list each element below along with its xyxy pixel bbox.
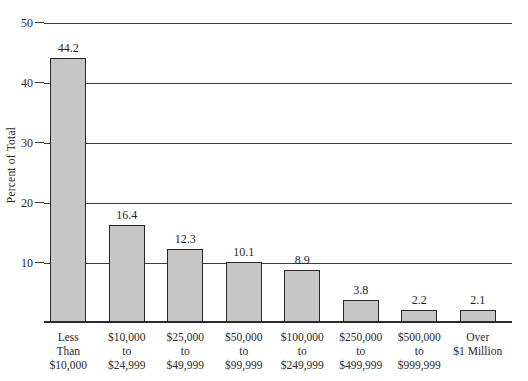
bar-value-label: 16.4: [116, 208, 137, 223]
x-axis-label: $25,000to$49,999: [167, 330, 204, 372]
x-axis-label: $50,000to$99,999: [225, 330, 262, 372]
y-tick-label-20: 20: [21, 196, 33, 211]
x-axis-label-line: $100,000: [281, 330, 324, 344]
bar-chart: Percent of Total 1020304050 44.216.412.3…: [0, 0, 528, 381]
y-tick-mark-40: [35, 82, 44, 83]
bar[interactable]: 3.8: [343, 300, 379, 323]
x-axis-label-line: Than: [50, 344, 87, 358]
bar-value-label: 3.8: [353, 283, 368, 298]
x-axis-category-labels: LessThan$10,000$10,000to$24,999$25,000to…: [44, 330, 512, 380]
x-axis-label-line: to: [339, 344, 382, 358]
y-tick-label-40: 40: [21, 76, 33, 91]
y-tick-mark-10: [35, 262, 44, 263]
bar-value-label: 8.9: [295, 253, 310, 268]
plot-area: 1020304050 44.216.412.310.18.93.82.22.1: [44, 23, 512, 323]
x-axis-label-line: $50,000: [225, 330, 262, 344]
x-axis-label: $250,000to$499,999: [339, 330, 382, 372]
x-axis-label-line: $499,999: [339, 358, 382, 372]
x-axis-label-line: $249,999: [281, 358, 324, 372]
y-tick-mark-30: [35, 142, 44, 143]
x-axis-label-line: $49,999: [167, 358, 204, 372]
x-axis-label-line: $250,000: [339, 330, 382, 344]
y-tick-label-50: 50: [21, 16, 33, 31]
x-axis-label-line: $999,999: [398, 358, 441, 372]
y-tick-mark-50: [35, 22, 44, 23]
bar[interactable]: 12.3: [167, 249, 203, 323]
x-axis-line: [44, 321, 512, 323]
x-axis-label-line: $1 Million: [453, 344, 502, 358]
bar[interactable]: 8.9: [284, 270, 320, 323]
bar-value-label: 2.2: [412, 293, 427, 308]
x-axis-label-line: $10,000: [50, 358, 87, 372]
bar-value-label: 10.1: [233, 245, 254, 260]
x-axis-label-line: $24,999: [108, 358, 145, 372]
x-axis-label-line: to: [108, 344, 145, 358]
bar-value-label: 12.3: [175, 232, 196, 247]
x-axis-label: $10,000to$24,999: [108, 330, 145, 372]
x-axis-label-line: $25,000: [167, 330, 204, 344]
x-axis-label-line: to: [167, 344, 204, 358]
x-axis-label-line: $10,000: [108, 330, 145, 344]
bar[interactable]: 44.2: [50, 58, 86, 323]
x-axis-label-line: to: [281, 344, 324, 358]
bar[interactable]: 10.1: [226, 262, 262, 323]
bar[interactable]: 16.4: [109, 225, 145, 323]
x-axis-label-line: Less: [50, 330, 87, 344]
y-axis-title: Percent of Total: [0, 0, 22, 330]
bar-group: 44.216.412.310.18.93.82.22.1: [44, 23, 512, 323]
y-tick-label-10: 10: [21, 256, 33, 271]
x-axis-label-line: $500,000: [398, 330, 441, 344]
x-axis-label: LessThan$10,000: [50, 330, 87, 372]
x-axis-label-line: $99,999: [225, 358, 262, 372]
x-axis-label-line: to: [398, 344, 441, 358]
bar-value-label: 44.2: [58, 41, 79, 56]
x-axis-label: $500,000to$999,999: [398, 330, 441, 372]
x-axis-label: $100,000to$249,999: [281, 330, 324, 372]
y-tick-label-30: 30: [21, 136, 33, 151]
x-axis-label: Over$1 Million: [453, 330, 502, 358]
y-tick-mark-20: [35, 202, 44, 203]
x-axis-label-line: to: [225, 344, 262, 358]
x-axis-label-line: Over: [453, 330, 502, 344]
y-axis-title-text: Percent of Total: [5, 127, 17, 203]
bar-value-label: 2.1: [470, 293, 485, 308]
